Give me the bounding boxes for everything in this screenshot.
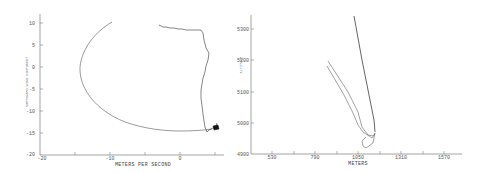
right-y-axis-label: ALTITUDE xyxy=(239,57,243,74)
left-x-axis-label: METERS PER SECOND xyxy=(115,162,171,168)
right-x-ticks xyxy=(272,151,444,154)
steep-trace-series xyxy=(354,16,375,132)
right-y-tick-label: 5300 xyxy=(237,27,249,33)
left-chart: 10 5 0 -5 -10 -15 -20 -20 -10 0 METERS P… xyxy=(25,14,224,168)
right-x-tick-label: 1310 xyxy=(395,155,407,161)
end-cluster-marker xyxy=(213,125,219,130)
left-y-tick-label: -10 xyxy=(26,109,35,115)
left-y-tick-label: -20 xyxy=(26,152,35,158)
left-y-axis-label: NORTHWARD WIND COMPONENT xyxy=(25,57,29,107)
loop-trace-a-series xyxy=(328,61,375,148)
smooth-arc-series xyxy=(80,22,212,131)
left-x-ticks xyxy=(75,152,215,155)
right-y-tick-label: 5000 xyxy=(237,121,249,127)
right-x-tick-label: 530 xyxy=(267,155,276,161)
figure: 10 5 0 -5 -10 -15 -20 -20 -10 0 METERS P… xyxy=(0,0,485,174)
left-y-tick-label: -15 xyxy=(26,131,35,137)
left-x-tick-label: -10 xyxy=(105,156,114,162)
right-y-ticks xyxy=(251,29,254,123)
left-y-tick-label: 10 xyxy=(29,21,35,27)
left-x-tick-label: 0 xyxy=(178,156,181,162)
left-y-tick-label: 5 xyxy=(32,43,35,49)
right-x-tick-label: 1570 xyxy=(438,155,450,161)
left-y-ticks xyxy=(40,23,43,133)
right-chart: 5300 5200 5100 5000 4900 530 790 1050 13… xyxy=(237,15,462,167)
left-y-tick-label: 0 xyxy=(32,65,35,71)
loop-trace-b-series xyxy=(327,66,366,134)
left-y-tick-label: -5 xyxy=(29,87,35,93)
wiggly-trace-series xyxy=(159,25,217,132)
right-x-tick-label: 790 xyxy=(310,155,319,161)
right-y-tick-label: 4900 xyxy=(237,152,249,158)
right-y-tick-label: 5100 xyxy=(237,90,249,96)
left-x-tick-label: -20 xyxy=(37,156,46,162)
right-x-axis-label: METERS xyxy=(348,161,368,167)
